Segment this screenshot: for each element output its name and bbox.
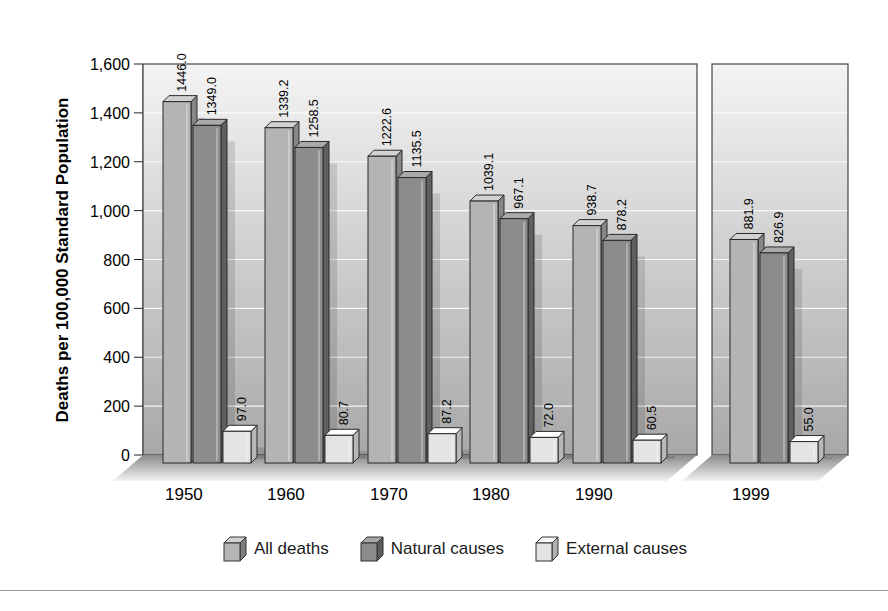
value-label: 1039.1 xyxy=(482,153,496,191)
bar-top xyxy=(760,247,794,253)
bar-side xyxy=(631,234,637,463)
legend-item-natural-causes: Natural causes xyxy=(359,535,504,563)
bar-top xyxy=(325,429,359,435)
bar-side xyxy=(528,213,534,463)
bar-top xyxy=(633,434,667,440)
value-label: 1222.6 xyxy=(380,108,394,146)
value-label: 1258.5 xyxy=(307,99,321,137)
legend-label: External causes xyxy=(566,539,687,559)
x-tick-label: 1990 xyxy=(575,485,613,504)
x-axis: 195019601970198019901999 xyxy=(165,485,770,504)
y-tick-label: 200 xyxy=(103,398,130,415)
bar-top xyxy=(573,220,607,226)
y-tick-label: 1,200 xyxy=(90,154,130,171)
y-tick-label: 1,400 xyxy=(90,105,130,122)
bar-top xyxy=(530,431,564,437)
bar-top xyxy=(500,213,534,219)
y-axis: 02004006008001,0001,2001,4001,600 xyxy=(90,56,143,464)
value-label: 1349.0 xyxy=(205,77,219,115)
value-label: 97.0 xyxy=(235,397,249,421)
bar-chart: 02004006008001,0001,2001,4001,600 1446.0… xyxy=(0,0,888,611)
bar-side xyxy=(788,247,794,463)
bar-side xyxy=(221,119,227,463)
divider xyxy=(0,590,888,591)
legend-label: All deaths xyxy=(254,539,329,559)
bar-top xyxy=(368,150,402,156)
value-label: 826.9 xyxy=(772,212,786,243)
bar-top xyxy=(265,122,299,128)
value-label: 87.2 xyxy=(440,399,454,423)
cube-swatch-icon xyxy=(359,535,385,563)
value-label: 878.2 xyxy=(615,199,629,230)
y-tick-label: 800 xyxy=(103,252,130,269)
x-tick-label: 1999 xyxy=(732,485,770,504)
bar-side xyxy=(323,141,329,463)
bar-side xyxy=(426,172,432,463)
x-tick-label: 1950 xyxy=(165,485,203,504)
value-label: 1339.2 xyxy=(277,79,291,117)
bar-top xyxy=(470,195,504,201)
bar-top xyxy=(193,119,227,125)
bar-top xyxy=(398,172,432,178)
value-label: 1446.0 xyxy=(175,53,189,91)
value-label: 80.7 xyxy=(337,401,351,425)
bar-top xyxy=(295,141,329,147)
bar-top xyxy=(163,96,197,102)
x-tick-label: 1980 xyxy=(472,485,510,504)
cube-swatch-icon xyxy=(222,535,248,563)
value-label: 881.9 xyxy=(742,198,756,229)
value-label: 55.0 xyxy=(802,407,816,431)
value-label: 938.7 xyxy=(585,184,599,215)
legend-label: Natural causes xyxy=(391,539,504,559)
y-tick-label: 1,000 xyxy=(90,203,130,220)
y-tick-label: 400 xyxy=(103,349,130,366)
value-label: 967.1 xyxy=(512,177,526,208)
legend-item-all-deaths: All deaths xyxy=(222,535,329,563)
value-label: 60.5 xyxy=(645,406,659,430)
bar-top xyxy=(223,425,257,431)
bar-top xyxy=(790,436,824,442)
legend-item-external-causes: External causes xyxy=(534,535,687,563)
y-tick-label: 1,600 xyxy=(90,56,130,73)
y-axis-label: Deaths per 100,000 Standard Population xyxy=(53,98,72,423)
value-label: 72.0 xyxy=(542,403,556,427)
value-label: 1135.5 xyxy=(410,130,424,167)
legend: All deaths Natural causes External cause… xyxy=(222,535,717,563)
bar-top xyxy=(603,234,637,240)
y-tick-label: 0 xyxy=(121,447,130,464)
y-tick-label: 600 xyxy=(103,300,130,317)
x-tick-label: 1970 xyxy=(370,485,408,504)
cube-swatch-icon xyxy=(534,535,560,563)
x-tick-label: 1960 xyxy=(267,485,305,504)
bar-top xyxy=(428,428,462,434)
bar-top xyxy=(730,233,764,239)
